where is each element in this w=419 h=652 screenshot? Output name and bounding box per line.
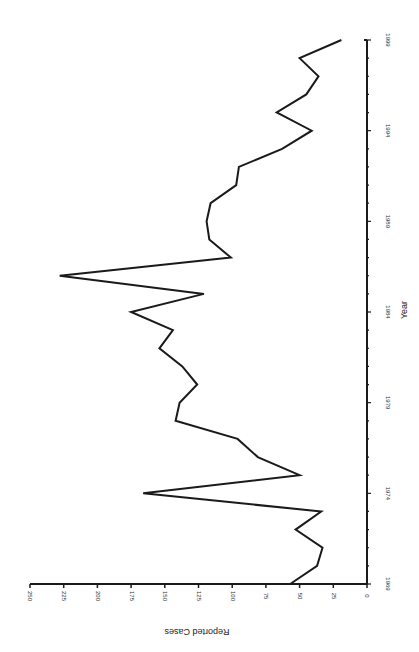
cases-tick-label: 250	[27, 591, 33, 602]
cases-tick-label: 100	[230, 591, 236, 602]
year-tick-label: 1974	[385, 487, 391, 501]
reported-cases-axis: 0255075100125150175200225250	[27, 584, 370, 602]
year-axis: 1969197419791984198919941999	[364, 33, 391, 591]
year-tick-label: 1969	[385, 577, 391, 591]
cases-tick-label: 75	[263, 593, 269, 600]
year-tick-label: 1989	[385, 215, 391, 229]
x-axis-title: Year	[399, 301, 409, 319]
cases-tick-label: 150	[162, 591, 168, 602]
cases-tick-label: 25	[331, 593, 337, 600]
line-chart: 0255075100125150175200225250 19691974197…	[0, 0, 419, 652]
cases-tick-label: 50	[297, 593, 303, 600]
cases-tick-label: 0	[364, 594, 370, 598]
year-tick-label: 1999	[385, 33, 391, 47]
cases-tick-label: 175	[129, 591, 135, 602]
year-tick-label: 1994	[385, 124, 391, 138]
y-axis-title: Reported Cases	[164, 627, 230, 637]
year-tick-label: 1979	[385, 396, 391, 410]
year-tick-label: 1984	[385, 305, 391, 319]
reported-cases-line	[60, 40, 342, 584]
cases-tick-label: 225	[61, 591, 67, 602]
cases-tick-label: 125	[196, 591, 202, 602]
cases-tick-label: 200	[95, 591, 101, 602]
